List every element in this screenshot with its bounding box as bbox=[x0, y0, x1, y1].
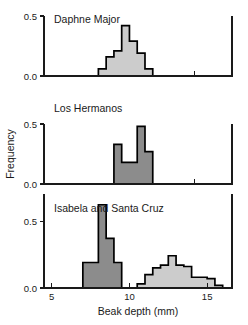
x-axis-tick-label-10: 10 bbox=[124, 291, 135, 302]
x-axis-tick-label-5: 5 bbox=[49, 291, 54, 302]
panel-2-ytick-label-0-0: 0.0 bbox=[24, 283, 37, 294]
histogram-figure: 0.5 0.0 Daphne Major 0.5 0.0 Los Hermano… bbox=[0, 0, 248, 325]
panel-2-ytick-label-0-5: 0.5 bbox=[24, 216, 37, 227]
panel-1-title: Los Hermanos bbox=[54, 102, 122, 114]
x-axis-title: Beak depth (mm) bbox=[98, 305, 179, 317]
x-axis-tick-label-15: 15 bbox=[202, 291, 213, 302]
figure-container: 0.5 0.0 Daphne Major 0.5 0.0 Los Hermano… bbox=[0, 0, 248, 325]
panel-1-ytick-label-top: 0.5 bbox=[24, 119, 37, 130]
y-axis-title: Frequency bbox=[4, 128, 16, 178]
panel-1-ytick-label-bottom: 0.0 bbox=[24, 179, 37, 190]
panel-0-title: Daphne Major bbox=[54, 13, 120, 25]
panel-0-ytick-label-bottom: 0.0 bbox=[24, 71, 37, 82]
panel-2-title: Isabela and Santa Cruz bbox=[54, 202, 164, 214]
panel-0-ytick-label-top: 0.5 bbox=[24, 11, 37, 22]
